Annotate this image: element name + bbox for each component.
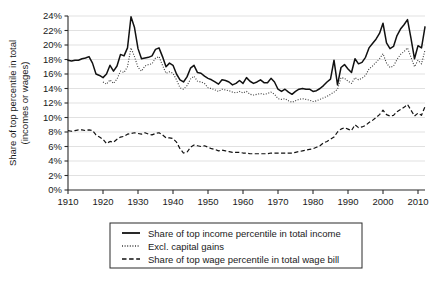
y-tick-label: 0% [48, 184, 62, 195]
x-tick-label: 1970 [267, 196, 288, 207]
y-tick-label: 18% [43, 54, 63, 65]
x-tick-label: 1910 [57, 196, 78, 207]
x-tick-label: 1930 [127, 196, 148, 207]
x-tick-label: 1990 [337, 196, 358, 207]
x-tick-label: 2000 [372, 196, 393, 207]
x-tick-label: 1920 [92, 196, 113, 207]
legend-label-0: Share of top income percentile in total … [148, 228, 341, 239]
x-tick-label: 1940 [162, 196, 183, 207]
y-tick-label: 22% [43, 25, 63, 36]
y-tick-label: 14% [43, 83, 63, 94]
y-tick-label: 10% [43, 112, 63, 123]
x-axis-ticks [68, 190, 418, 194]
y-axis-title-line2: (incomes or wages) [19, 62, 30, 145]
x-tick-label: 1980 [302, 196, 323, 207]
x-tick-label: 1960 [232, 196, 253, 207]
y-tick-label: 6% [48, 141, 62, 152]
y-tick-label: 2% [48, 170, 62, 181]
y-tick-label: 16% [43, 68, 63, 79]
y-tick-label: 12% [43, 97, 63, 108]
chart-legend: Share of top income percentile in total … [110, 223, 362, 268]
legend-label-2: Share of top wage percentile in total wa… [148, 254, 339, 265]
y-tick-label: 20% [43, 39, 63, 50]
x-tick-label: 1950 [197, 196, 218, 207]
x-axis-tick-labels: 1910192019301940195019601970198019902000… [57, 196, 428, 207]
x-tick-label: 2010 [407, 196, 428, 207]
y-tick-label: 8% [48, 126, 62, 137]
y-axis-tick-labels: 0%2%4%6%8%10%12%14%16%18%20%22%24% [43, 10, 63, 195]
legend-label-1: Excl. capital gains [148, 241, 224, 252]
y-tick-label: 24% [43, 10, 63, 21]
chart-figure: 0%2%4%6%8%10%12%14%16%18%20%22%24% 19101… [0, 0, 432, 282]
y-tick-label: 4% [48, 155, 62, 166]
y-axis-title-line1: Share of top percentile in total [7, 40, 18, 166]
